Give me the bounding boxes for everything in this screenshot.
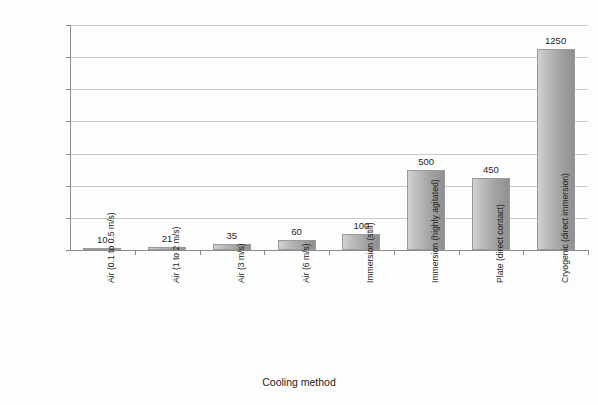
bar-value-label: 60 [291,226,302,237]
x-axis-category-label: Air (3 m/s) [236,243,246,283]
bar-value-label: 35 [227,230,238,241]
bar-slot: 500 [394,25,459,250]
chart-page: Surface heat transfer coefficient (W/m2°… [0,0,598,405]
x-axis-title: Cooling method [0,376,598,388]
bar-series: 102135601005004501250 [70,25,588,250]
bar-slot: 1250 [523,25,588,250]
bar-slot: 35 [200,25,265,250]
x-axis-tick-mark [523,250,524,255]
x-axis-tick-mark [329,250,330,255]
x-axis-tick-mark [459,250,460,255]
bar-value-label: 450 [483,164,499,175]
x-axis-category-label: Air (0.1 to 0.5 m/s) [106,212,116,283]
x-axis-category-label: Immersion (still) [365,222,375,283]
bar-value-label: 1250 [545,35,566,46]
x-axis-tick-mark [588,250,589,255]
bar-slot: 10 [70,25,135,250]
plot-area: 0200400600800100012001400 10213560100500… [70,25,588,250]
bar-value-label: 500 [418,156,434,167]
bar-slot: 60 [264,25,329,250]
x-axis-category-label: Cryogenic (direct immersion) [560,173,570,283]
x-axis-category-label: Air (6 m/s) [301,243,311,283]
x-axis-tick-mark [200,250,201,255]
bar-slot: 450 [459,25,524,250]
x-axis-category-label: Immersion (highly agitated) [430,179,440,283]
x-axis-category-label: Air (1 to 2 m/s) [171,227,181,283]
bar-slot: 100 [329,25,394,250]
bar-slot: 21 [135,25,200,250]
x-axis-tick-mark [135,250,136,255]
x-axis-tick-mark [264,250,265,255]
x-axis-category-label: Plate (direct contact) [495,204,505,283]
x-axis-tick-mark [394,250,395,255]
